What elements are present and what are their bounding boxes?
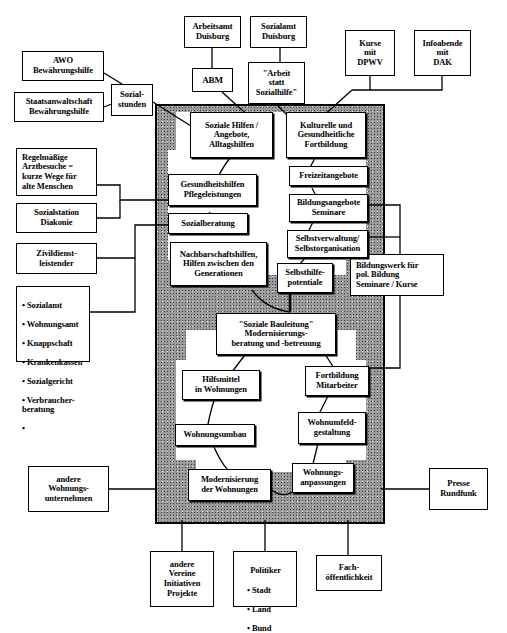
node-wohnungsumbau[interactable]: Wohnungsumbau (175, 424, 255, 446)
node-infoabende-dak[interactable]: Infoabende mit DAK (414, 30, 471, 76)
node-arbeit-statt-sozialhilfe[interactable]: "Arbeit statt Sozialhilfe" (248, 62, 305, 104)
node-sozialamt-duisburg[interactable]: Sozialamt Duisburg (250, 16, 307, 48)
node-aemter-list[interactable]: • Sozialamt • Wohnungsamt • Knappschaft … (16, 286, 90, 362)
node-hilfsmittel[interactable]: Hilfsmittel in Wohnungen (182, 370, 260, 400)
node-soziale-bauleitung[interactable]: "Soziale Bauleitung" Modernisierungs- be… (216, 313, 336, 355)
node-andere-wohnungsunternehmen[interactable]: andere Wohnungs- unternehmen (28, 466, 109, 512)
aemter-item-4: • Sozialgericht (22, 376, 73, 386)
node-regelmaessige-arztbesuche[interactable]: Regelmäßige Arztbesuche = kurze Wege für… (16, 148, 97, 196)
node-selbsthilfepotentiale[interactable]: Selbsthilfe- potentiale (277, 263, 333, 293)
node-bildungswerk[interactable]: Bildungswerk für pol. Bildung Seminare /… (350, 254, 444, 296)
aemter-item-3: • Krankenkassen (22, 357, 82, 367)
node-fortbildung-mitarbeiter[interactable]: Fortbildung Mitarbeiter (305, 366, 369, 396)
politiker-header: Politiker (239, 566, 292, 576)
node-abm[interactable]: ABM (192, 68, 233, 92)
node-fachoeffentlichkeit[interactable]: Fach- öffentlichkeit (316, 555, 382, 591)
node-kulturelle-fortbildung[interactable]: Kulturelle und Gesundheitliche Fortbildu… (286, 112, 366, 158)
node-wohnumfeldgestaltung[interactable]: Wohnumfeld- gestaltung (298, 412, 366, 444)
node-arbeitsamt-duisburg[interactable]: Arbeitsamt Duisburg (184, 16, 241, 48)
node-selbstverwaltung[interactable]: Selbstverwaltung/ Selbstorganisation (287, 230, 368, 258)
node-sozialberatung[interactable]: Sozialberatung (168, 213, 248, 234)
node-awo-bewaehrungshilfe[interactable]: AWO Bewährungshilfe (22, 51, 104, 81)
node-presse-rundfunk[interactable]: Presse Rundfunk (429, 468, 488, 510)
politiker-item-0: • Stadt (239, 585, 271, 595)
politiker-item-1: • Land (239, 604, 271, 614)
aemter-item-1: • Wohnungsamt (22, 319, 79, 329)
node-soziale-hilfen[interactable]: Soziale Hilfen / Angebote, Alltagshilfen (190, 112, 273, 158)
node-politiker[interactable]: Politiker • Stadt • Land • Bund (233, 551, 297, 607)
node-modernisierung[interactable]: Modernisierung der Wohnungen (188, 469, 271, 501)
node-freizeitangebote[interactable]: Freizeitangebote (289, 166, 368, 186)
node-sozialstunden[interactable]: Sozial- stunden (111, 84, 153, 116)
aemter-item-2: • Knappschaft (22, 338, 73, 348)
aemter-item-0: • Sozialamt (22, 300, 62, 310)
node-gesundheitshilfen[interactable]: Gesundheitshilfen Pflegeleistungen (168, 174, 257, 206)
node-bildungsangebote[interactable]: Bildungsangebote Seminare (289, 194, 368, 222)
aemter-item-6: • (22, 423, 25, 433)
node-zivildienstleistender[interactable]: Zivildienst- leistender (16, 243, 97, 274)
node-kurse-dpwv[interactable]: Kurse mit DPWV (345, 30, 395, 76)
node-staatsanwaltschaft[interactable]: Staatsanwaltschaft Bewährungshilfe (14, 92, 104, 122)
node-wohnungsanpassungen[interactable]: Wohnungs- anpassungen (292, 463, 354, 493)
node-sozialstation-diakonie[interactable]: Sozialstation Diakonie (16, 203, 97, 233)
node-nachbarschaftshilfen[interactable]: Nachbarschaftshilfen, Hilfen zwischen de… (170, 242, 267, 286)
politiker-item-2: • Bund (239, 623, 271, 633)
node-andere-vereine[interactable]: andere Vereine Initiativen Projekte (150, 551, 214, 607)
